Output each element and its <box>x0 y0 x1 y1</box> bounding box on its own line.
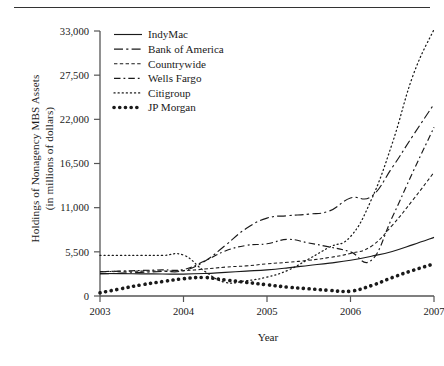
y-tick-label: 22,000 <box>60 114 89 125</box>
legend-label-indymac: IndyMac <box>148 28 188 40</box>
series-line-jp-morgan <box>100 264 434 293</box>
y-tick-label: 16,500 <box>60 158 89 169</box>
legend-label-countrywide: Countrywide <box>148 58 206 70</box>
y-axis-title: Holdings of Nonagency MBS Assets (in mil… <box>29 34 56 284</box>
legend-label-bank-of-america: Bank of America <box>148 43 224 55</box>
series-line-bank-of-america <box>100 104 434 274</box>
y-tick-label: 5,500 <box>65 247 89 258</box>
x-tick-label: 2005 <box>256 306 277 317</box>
series-line-wells-fargo <box>100 127 434 272</box>
x-axis-title: Year <box>100 331 436 343</box>
line-chart-plot: 05,50011,00016,50022,00027,50033,000 200… <box>0 0 444 366</box>
legend-label-wells-fargo: Wells Fargo <box>148 72 202 84</box>
y-tick-group: 05,50011,00016,50022,00027,50033,000 <box>60 26 100 302</box>
y-axis-title-text: Holdings of Nonagency MBS Assets (in mil… <box>29 75 55 243</box>
x-tick-label: 2006 <box>340 306 361 317</box>
y-tick-label: 0 <box>84 291 89 302</box>
x-tick-group: 20032004200520062007 <box>89 296 444 317</box>
series-line-countrywide <box>100 172 434 271</box>
x-tick-label: 2007 <box>423 306 444 317</box>
y-tick-label: 11,000 <box>60 202 89 213</box>
y-tick-label: 33,000 <box>60 26 89 37</box>
y-tick-label: 27,500 <box>60 70 89 81</box>
x-tick-label: 2003 <box>89 306 110 317</box>
legend-label-citigroup: Citigroup <box>148 87 191 99</box>
chart-figure: Holdings of Nonagency MBS Assets (in mil… <box>0 0 444 366</box>
chart-axes <box>100 31 434 296</box>
legend-label-jp-morgan: JP Morgan <box>148 101 196 113</box>
chart-legend: IndyMacBank of AmericaCountrywideWells F… <box>114 28 224 113</box>
header-rule <box>14 7 430 8</box>
x-tick-label: 2004 <box>173 306 195 317</box>
